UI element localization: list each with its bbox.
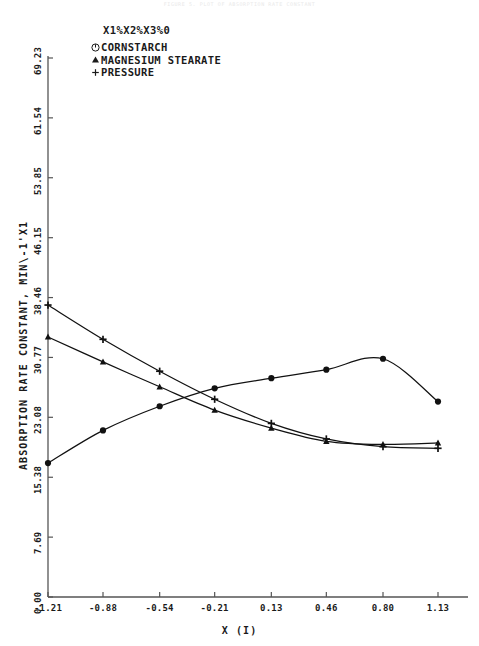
axis-tick-marks — [48, 58, 438, 597]
axis-lines — [48, 56, 468, 597]
data-point-plus — [434, 445, 441, 452]
data-point-triangle — [45, 334, 51, 340]
data-point-plus — [268, 420, 275, 427]
data-point-circle — [45, 460, 51, 466]
data-point-circle — [380, 356, 386, 362]
data-point-circle — [100, 427, 106, 433]
data-point-plus — [156, 368, 163, 375]
data-point-plus — [44, 301, 51, 308]
chart-figure: FIGURE 5. PLOT OF ABSORPTION RATE CONSTA… — [0, 0, 479, 646]
data-point-circle — [435, 398, 441, 404]
data-series-layer — [44, 301, 441, 466]
data-point-circle — [323, 367, 329, 373]
data-point-circle — [268, 375, 274, 381]
data-point-circle — [157, 403, 163, 409]
data-point-circle — [212, 385, 218, 391]
data-point-plus — [99, 336, 106, 343]
series-cornstarch — [45, 356, 441, 467]
chart-plot-area — [0, 0, 479, 646]
data-point-plus — [211, 396, 218, 403]
